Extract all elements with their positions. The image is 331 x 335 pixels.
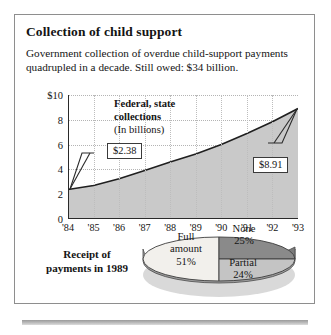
infographic-panel: Collection of child support Government c… — [14, 14, 315, 304]
x-tick-85: '85 — [88, 222, 100, 233]
pie-caption-line-2: payments in 1989 — [33, 261, 141, 275]
pie-chart: Full amount 51% None 25% Partial 24% — [133, 213, 305, 304]
bottom-divider-rule — [22, 320, 308, 325]
y-tick-2: 2 — [58, 189, 63, 200]
pie-label-partial-value: 24% — [215, 269, 271, 281]
y-tick-10: $10 — [47, 90, 63, 101]
pie-label-none-line-1: None — [219, 223, 269, 235]
callout-value-1993: $8.91 — [253, 157, 288, 173]
y-tick-6: 6 — [58, 139, 63, 150]
y-tick-4: 4 — [58, 164, 63, 175]
pie-label-full-value: 51% — [155, 256, 217, 268]
deck-text: Government collection of overdue child-s… — [26, 46, 304, 74]
x-tick-84: '84 — [62, 222, 74, 233]
pie-label-partial-line-1: Partial — [215, 257, 271, 269]
y-tick-8: 8 — [58, 114, 63, 125]
x-tick-86: '86 — [113, 222, 125, 233]
pie-label-partial: Partial 24% — [215, 257, 271, 282]
pie-label-full-line-1: Full — [155, 231, 217, 243]
pie-chart-caption: Receipt of payments in 1989 — [33, 247, 141, 275]
area-chart: $10 8 6 4 2 0 '84 '85 '86 — [26, 87, 306, 232]
pie-caption-line-1: Receipt of — [33, 247, 141, 261]
callout-value-1984: $2.38 — [107, 143, 142, 159]
pie-label-none: None 25% — [219, 223, 269, 248]
page-title: Collection of child support — [26, 24, 182, 40]
pie-label-none-value: 25% — [219, 235, 269, 247]
pie-label-full-amount: Full amount 51% — [155, 231, 217, 268]
pie-label-full-line-2: amount — [155, 243, 217, 255]
area-chart-plot: $10 8 6 4 2 0 '84 '85 '86 — [68, 95, 298, 219]
